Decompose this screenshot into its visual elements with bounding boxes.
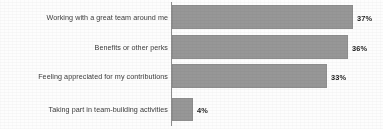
bar[interactable] (172, 64, 327, 88)
value-label: 36% (352, 44, 367, 53)
value-label: 37% (357, 14, 372, 23)
value-label: 4% (197, 106, 208, 115)
plot-area: Working with a great team around me 37% … (0, 0, 383, 129)
category-label: Taking part in team-building activities (49, 105, 168, 114)
bar[interactable] (172, 98, 193, 121)
category-label: Working with a great team around me (47, 13, 168, 22)
bar[interactable] (172, 35, 348, 59)
bar[interactable] (172, 5, 353, 29)
category-label: Feeling appreciated for my contributions (38, 72, 168, 81)
category-label: Benefits or other perks (95, 43, 168, 52)
bar-chart: Working with a great team around me 37% … (0, 0, 383, 129)
value-label: 33% (331, 73, 346, 82)
